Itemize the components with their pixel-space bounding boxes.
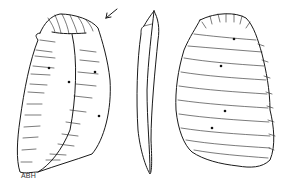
artifact-illustration: ABH bbox=[0, 0, 289, 190]
profile-view bbox=[137, 11, 159, 174]
dorsal-view bbox=[17, 9, 117, 173]
ventral-view bbox=[176, 14, 275, 167]
artifact-drawing bbox=[0, 0, 289, 190]
arrow-icon bbox=[106, 9, 117, 18]
illustrator-initials: ABH bbox=[21, 172, 36, 179]
